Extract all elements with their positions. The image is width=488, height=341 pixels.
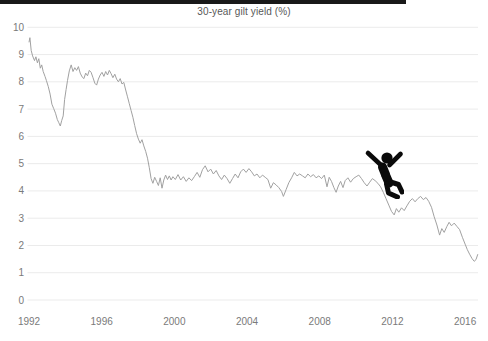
- yield-line-series-0: [29, 38, 478, 262]
- y-tick-label-6: 6: [18, 131, 24, 142]
- y-tick-label-7: 7: [18, 104, 24, 115]
- y-tick-label-2: 2: [18, 240, 24, 251]
- falling-person-icon: [360, 145, 404, 199]
- x-tick-label-2016: 2016: [454, 316, 477, 327]
- y-tick-label-8: 8: [18, 76, 24, 87]
- x-tick-label-1992: 1992: [18, 316, 41, 327]
- y-tick-label-9: 9: [18, 49, 24, 60]
- y-tick-label-1: 1: [18, 267, 24, 278]
- y-tick-label-4: 4: [18, 185, 24, 196]
- x-tick-label-2008: 2008: [309, 316, 332, 327]
- y-tick-label-5: 5: [18, 158, 24, 169]
- x-tick-label-2012: 2012: [381, 316, 404, 327]
- x-tick-label-1996: 1996: [91, 316, 114, 327]
- x-tick-label-2000: 2000: [163, 316, 186, 327]
- y-tick-label-0: 0: [18, 295, 24, 306]
- y-tick-label-10: 10: [13, 22, 25, 33]
- x-tick-label-2004: 2004: [236, 316, 259, 327]
- chart-panel: 30-year gilt yield (%) 01234567891019921…: [0, 0, 488, 341]
- gilt-yield-line-chart: 0123456789101992199620002004200820122016: [0, 0, 488, 341]
- y-tick-label-3: 3: [18, 213, 24, 224]
